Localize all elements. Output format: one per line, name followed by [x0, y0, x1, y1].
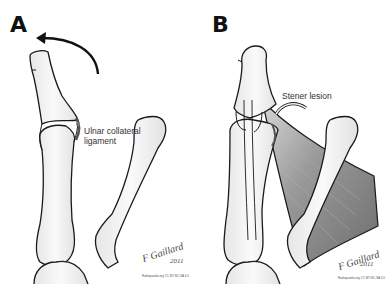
ucl-annotation: Ulnar collateral ligament — [84, 127, 141, 147]
distal-phalanx-a — [30, 51, 78, 124]
credit-a: Radiopaedia.org CC BY-NC-SA 4.0 — [142, 274, 189, 278]
thumb-ucl-illustration — [0, 0, 388, 284]
signature-year-a: 2011 — [170, 257, 183, 265]
metacarpal-a — [34, 261, 88, 284]
stener-lesion-annotation: Stener lesion — [282, 92, 332, 102]
proximal-phalanx-b — [224, 119, 278, 265]
distal-phalanx-b — [234, 46, 276, 118]
metacarpal-b — [226, 261, 280, 284]
ucl-annotation-line-2: ligament — [84, 137, 141, 147]
credit-b: Radiopaedia.org CC BY-NC-SA 4.0 — [338, 276, 385, 280]
proximal-phalanx-a — [36, 125, 74, 266]
panel-label-a: A — [10, 14, 27, 36]
panel-a-drawing — [30, 32, 166, 284]
panel-label-b: B — [212, 14, 229, 36]
signature-year-b: 2011 — [360, 260, 373, 268]
panel-b-drawing — [224, 46, 378, 284]
